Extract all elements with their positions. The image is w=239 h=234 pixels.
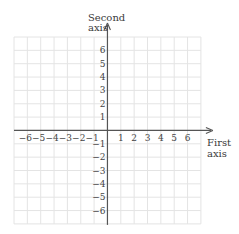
x-tick-label: 6 (185, 133, 191, 143)
y-tick-label: −1 (92, 139, 105, 149)
y-tick-label: 4 (100, 72, 106, 82)
x-tick-label: 5 (171, 133, 177, 143)
x-tick-label: 3 (145, 133, 151, 143)
y-tick-label: 3 (100, 85, 106, 95)
y-tick-label: −5 (92, 192, 106, 202)
x-tick-label: 4 (158, 133, 164, 143)
y-tick-label: 2 (100, 99, 106, 109)
y-tick-label: 6 (100, 45, 106, 55)
y-tick-label: −3 (92, 166, 106, 176)
x-tick-label: 2 (131, 133, 137, 143)
y-tick-label: 5 (100, 59, 106, 69)
axes (14, 23, 213, 225)
y-tick-label: 1 (100, 112, 106, 122)
y-tick-label: −2 (92, 152, 105, 162)
x-axis-label-line2: axis (207, 148, 227, 159)
x-tick-label: −6 (19, 133, 33, 143)
x-tick-label: −4 (45, 133, 59, 143)
x-axis-label-line1: First (207, 137, 231, 148)
y-tick-label: −4 (92, 179, 106, 189)
x-tick-label: −5 (32, 133, 46, 143)
x-tick-label: 1 (118, 133, 124, 143)
coordinate-plane: −6−5−4−3−2−1123456 654321−1−2−3−4−5−6 Se… (0, 0, 239, 234)
x-tick-label: −3 (59, 133, 73, 143)
y-tick-label: −6 (92, 206, 106, 216)
y-axis-label-line2: axis (88, 22, 108, 33)
x-tick-label: −2 (72, 133, 85, 143)
